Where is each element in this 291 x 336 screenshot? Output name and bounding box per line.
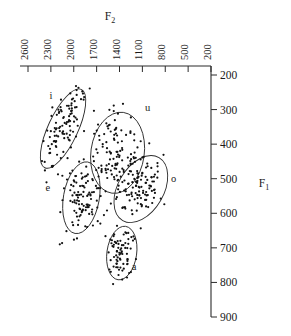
data-point [151, 180, 153, 182]
data-point [121, 149, 123, 151]
data-point [96, 200, 98, 202]
data-point [134, 238, 136, 240]
data-point [140, 158, 142, 160]
x-tick-label: 800 [156, 44, 167, 60]
data-point [121, 207, 123, 209]
data-point [61, 131, 63, 133]
data-point [129, 160, 131, 162]
data-point [71, 221, 73, 223]
data-point [141, 172, 143, 174]
data-point [81, 203, 83, 205]
data-point [73, 121, 75, 123]
data-point [77, 87, 79, 89]
data-point [47, 145, 49, 147]
data-point [133, 178, 135, 180]
data-point [145, 205, 147, 207]
data-point [107, 168, 109, 170]
data-point [44, 169, 46, 171]
cluster-label-o: o [171, 173, 176, 184]
data-point [147, 206, 149, 208]
data-point [126, 263, 128, 265]
data-point [121, 181, 123, 183]
data-point [129, 170, 131, 172]
data-point [132, 235, 134, 237]
data-point [153, 189, 155, 191]
data-point [132, 186, 134, 188]
data-point [95, 185, 97, 187]
data-point [73, 192, 75, 194]
cluster-label-u: u [145, 102, 151, 113]
data-point [117, 179, 119, 181]
data-point [121, 269, 123, 271]
data-point [145, 182, 147, 184]
data-point [83, 130, 85, 132]
data-point [153, 197, 155, 199]
data-point [117, 185, 119, 187]
data-point [163, 203, 165, 205]
x-tick-label: 200 [202, 44, 213, 60]
cluster-labels: iueoa [45, 90, 176, 272]
data-point [73, 239, 75, 241]
data-point [135, 185, 137, 187]
data-point [132, 163, 134, 165]
data-point [135, 192, 137, 194]
data-point [95, 169, 97, 171]
data-point [145, 199, 147, 201]
data-point [96, 152, 98, 154]
data-point [58, 127, 60, 129]
data-point [99, 223, 101, 225]
data-point [121, 159, 123, 161]
data-point [157, 170, 159, 172]
data-point [125, 134, 127, 136]
data-point [117, 113, 119, 115]
data-point [116, 250, 118, 252]
data-point [105, 164, 107, 166]
data-point [89, 87, 91, 89]
x-tick-label: 500 [179, 44, 190, 60]
data-point [75, 89, 77, 91]
data-point [69, 139, 71, 141]
data-point [93, 110, 95, 112]
data-point [71, 170, 73, 172]
data-point [91, 213, 93, 215]
data-point [106, 177, 108, 179]
data-point [85, 206, 87, 208]
data-point [145, 191, 147, 193]
data-point [88, 213, 90, 215]
data-point [106, 151, 108, 153]
data-point [76, 94, 78, 96]
data-point [112, 235, 114, 237]
data-point [101, 168, 103, 170]
data-point [110, 130, 112, 132]
data-point [103, 214, 105, 216]
data-point [116, 225, 118, 227]
x-tick-label: 2300 [42, 39, 53, 60]
data-point [98, 167, 100, 169]
data-point [116, 174, 118, 176]
data-point [117, 141, 119, 143]
data-point [121, 278, 123, 280]
data-point [102, 146, 104, 148]
data-point [114, 119, 116, 121]
data-point [115, 259, 117, 261]
data-point [59, 211, 61, 213]
data-point [151, 190, 153, 192]
data-point [132, 156, 134, 158]
data-point [127, 183, 129, 185]
data-point [126, 253, 128, 255]
data-point [125, 190, 127, 192]
data-point [82, 93, 84, 95]
data-point [117, 256, 119, 258]
data-point [62, 117, 64, 119]
data-point [127, 173, 129, 175]
data-point [55, 122, 57, 124]
data-point [132, 174, 134, 176]
data-point [70, 102, 72, 104]
data-point [119, 171, 121, 173]
data-point [140, 179, 142, 181]
data-point [124, 207, 126, 209]
data-point [96, 206, 98, 208]
data-point [76, 216, 78, 218]
vowel-formant-scatter-figure: 260023002000170014001100800500200 200300… [0, 0, 291, 336]
data-point [89, 194, 91, 196]
